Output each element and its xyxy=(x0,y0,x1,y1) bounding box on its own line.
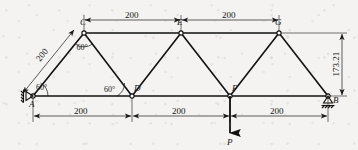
node-label-C: C xyxy=(80,17,87,27)
dim-label-AD: 200 xyxy=(74,106,88,116)
node-labels: A C D E F G B xyxy=(28,17,339,109)
dim-label-CE: 200 xyxy=(125,10,139,20)
dim-line-AC xyxy=(23,30,74,93)
dim-label-FB: 200 xyxy=(270,106,284,116)
truss-diagram: 60° 60° 60° A C D E F G B 200 200 xyxy=(0,0,358,150)
bottom-dimensions: 200 200 200 xyxy=(33,98,328,122)
node-label-F: F xyxy=(231,83,238,93)
node-label-A: A xyxy=(28,99,35,109)
node-D xyxy=(130,94,134,98)
load-label-P: P xyxy=(226,137,233,147)
node-label-D: D xyxy=(133,83,141,93)
angle-label-A: 60° xyxy=(36,83,47,92)
figure-canvas: 60° 60° 60° A C D E F G B 200 200 xyxy=(0,0,358,150)
dim-label-DF: 200 xyxy=(172,106,186,116)
node-E xyxy=(179,31,183,35)
load-arrow-P: P xyxy=(226,96,233,147)
angle-label-C: 60° xyxy=(77,43,88,52)
dim-label-height: 173.21 xyxy=(331,52,341,77)
dim-label-EG: 200 xyxy=(222,10,236,20)
node-C xyxy=(82,31,86,35)
member-GB xyxy=(279,33,328,96)
vertical-dimension-height: 173.21 xyxy=(281,33,347,96)
dim-label-AC: 200 xyxy=(34,46,51,63)
node-G xyxy=(277,31,281,35)
member-EF xyxy=(181,33,230,96)
node-label-E: E xyxy=(176,17,183,27)
node-label-B: B xyxy=(333,95,339,105)
diagonal-dimension-AC: 200 xyxy=(23,30,74,93)
angle-label-D: 60° xyxy=(104,85,115,94)
node-label-G: G xyxy=(275,17,282,27)
